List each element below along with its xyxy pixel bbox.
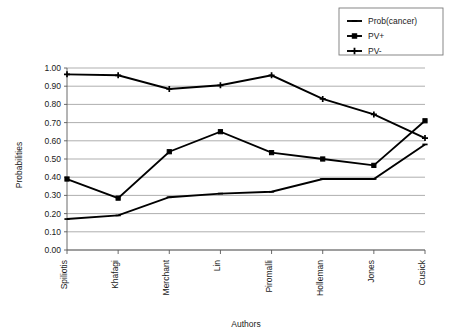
x-axis-category-label: Holleman [315, 260, 325, 296]
square-marker [372, 163, 376, 167]
x-axis-title: Authors [231, 319, 260, 329]
y-axis-tick-label: 0.50 [44, 154, 61, 164]
square-marker [65, 177, 69, 181]
y-axis-tick-label: 0.00 [44, 245, 61, 255]
y-axis-tick-label: 0.30 [44, 190, 61, 200]
x-axis-category-label: Jones [366, 260, 376, 283]
x-axis-category-label: Spiliotis [59, 260, 69, 289]
y-axis-tick-label: 0.90 [44, 81, 61, 91]
x-axis-category-label: Piromalli [264, 260, 274, 293]
square-marker [218, 130, 222, 134]
x-axis-category-label: Lin [212, 260, 222, 272]
legend-item-label: PV- [368, 46, 382, 56]
y-axis-tick-label: 0.40 [44, 172, 61, 182]
y-axis-tick-label: 0.60 [44, 136, 61, 146]
chart-canvas: 0.000.100.200.300.400.500.600.700.800.90… [0, 0, 460, 334]
square-marker [321, 157, 325, 161]
y-axis-title: Probabilities [14, 142, 24, 188]
legend-item-label: PV+ [368, 31, 384, 41]
x-axis-category-label: Merchant [161, 259, 171, 295]
x-axis-category-label: Khafagi [110, 260, 120, 289]
y-axis-tick-label: 0.70 [44, 118, 61, 128]
line-chart: 0.000.100.200.300.400.500.600.700.800.90… [0, 0, 460, 334]
square-marker [167, 150, 171, 154]
y-axis-tick-label: 0.80 [44, 99, 61, 109]
y-axis-tick-label: 0.20 [44, 209, 61, 219]
y-axis-tick-label: 1.00 [44, 63, 61, 73]
y-axis-tick-label: 0.10 [44, 227, 61, 237]
square-marker [423, 119, 427, 123]
square-marker [269, 151, 273, 155]
square-marker [352, 34, 356, 38]
square-marker [116, 196, 120, 200]
x-axis-category-label: Cusick [417, 259, 427, 285]
chart-legend[interactable]: Prob(cancer)PV+PV- [339, 8, 443, 56]
legend-item-label: Prob(cancer) [368, 16, 417, 26]
